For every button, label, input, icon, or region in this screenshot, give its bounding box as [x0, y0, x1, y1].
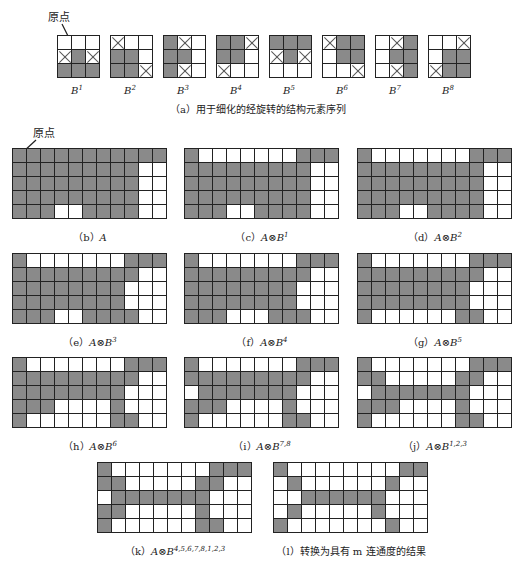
background-pixel: [316, 477, 329, 490]
foreground-pixel: [358, 310, 371, 323]
foreground-cell: [337, 50, 350, 63]
foreground-pixel: [210, 463, 223, 476]
background-pixel: [442, 149, 455, 162]
foreground-pixel: [288, 505, 301, 518]
foreground-cell: [72, 50, 85, 63]
foreground-pixel: [182, 491, 195, 504]
foreground-pixel: [358, 163, 371, 176]
background-pixel: [316, 463, 329, 476]
foreground-pixel: [283, 310, 296, 323]
foreground-pixel: [27, 282, 40, 295]
background-pixel: [297, 400, 310, 413]
foreground-pixel: [470, 191, 483, 204]
foreground-pixel: [41, 282, 54, 295]
foreground-pixel: [428, 205, 441, 218]
structuring-element-label: B3: [162, 84, 204, 96]
foreground-pixel: [269, 386, 282, 399]
foreground-cell: [111, 64, 124, 77]
foreground-pixel: [55, 163, 68, 176]
background-pixel: [358, 519, 371, 532]
foreground-pixel: [358, 254, 371, 267]
background-pixel: [442, 254, 455, 267]
background-pixel: [428, 149, 441, 162]
background-pixel: [330, 463, 343, 476]
background-pixel: [139, 310, 152, 323]
foreground-cell: [111, 50, 124, 63]
foreground-pixel: [241, 282, 254, 295]
foreground-cell: [125, 64, 138, 77]
caption-b: （b）A: [0, 229, 188, 244]
foreground-pixel: [213, 310, 226, 323]
foreground-pixel: [97, 191, 110, 204]
label-superscript: 8: [449, 84, 453, 92]
foreground-pixel: [227, 372, 240, 385]
foreground-pixel: [297, 254, 310, 267]
foreground-pixel: [442, 282, 455, 295]
foreground-pixel: [386, 400, 399, 413]
dont-care-cell: [351, 64, 364, 77]
background-pixel: [55, 310, 68, 323]
origin-label-top: 原点: [48, 8, 70, 24]
caption-l: （l）转换为具有 m 连通度的结果: [253, 543, 449, 558]
background-pixel: [168, 519, 181, 532]
caption-expression: A⊗B: [260, 337, 283, 348]
background-pixel: [344, 519, 357, 532]
background-pixel: [442, 400, 455, 413]
caption-k: （k）A⊗B4,5,6,7,8,1,2,3: [77, 543, 273, 558]
foreground-pixel: [456, 386, 469, 399]
foreground-pixel: [153, 358, 166, 371]
background-pixel: [414, 310, 427, 323]
dont-care-cell: [217, 64, 230, 77]
background-pixel: [344, 505, 357, 518]
foreground-pixel: [69, 372, 82, 385]
foreground-pixel: [386, 268, 399, 281]
background-pixel: [274, 505, 287, 518]
foreground-pixel: [13, 400, 26, 413]
caption-prefix: （e）: [63, 337, 89, 348]
background-pixel: [153, 296, 166, 309]
background-cell: [245, 50, 258, 63]
background-pixel: [199, 254, 212, 267]
foreground-pixel: [111, 372, 124, 385]
background-pixel: [224, 491, 237, 504]
foreground-pixel: [27, 205, 40, 218]
background-pixel: [372, 477, 385, 490]
foreground-pixel: [13, 191, 26, 204]
structuring-element-b1: [57, 35, 100, 78]
label-superscript: 5: [290, 84, 294, 92]
foreground-pixel: [414, 268, 427, 281]
structuring-element-b6: [322, 35, 365, 78]
background-cell: [429, 36, 442, 49]
structuring-element-label: B1: [56, 84, 98, 96]
foreground-pixel: [27, 163, 40, 176]
foreground-pixel: [196, 505, 209, 518]
background-pixel: [154, 477, 167, 490]
foreground-pixel: [13, 358, 26, 371]
background-pixel: [325, 386, 338, 399]
background-pixel: [153, 191, 166, 204]
background-pixel: [83, 400, 96, 413]
foreground-pixel: [210, 477, 223, 490]
dont-care-cell: [270, 50, 283, 63]
foreground-pixel: [241, 372, 254, 385]
structuring-element-label: B7: [374, 84, 416, 96]
caption-prefix: （i）: [233, 441, 256, 452]
foreground-pixel: [241, 386, 254, 399]
background-pixel: [311, 282, 324, 295]
background-pixel: [185, 386, 198, 399]
background-pixel: [498, 191, 511, 204]
foreground-pixel: [241, 191, 254, 204]
foreground-pixel: [185, 400, 198, 413]
background-pixel: [442, 414, 455, 427]
foreground-pixel: [400, 177, 413, 190]
foreground-pixel: [97, 177, 110, 190]
caption-expression: A⊗B: [151, 546, 174, 557]
foreground-pixel: [13, 386, 26, 399]
arrow-icon: [0, 0, 1, 1]
foreground-pixel: [400, 463, 413, 476]
foreground-pixel: [83, 310, 96, 323]
background-pixel: [311, 177, 324, 190]
background-pixel: [414, 491, 427, 504]
foreground-pixel: [97, 282, 110, 295]
background-pixel: [182, 463, 195, 476]
